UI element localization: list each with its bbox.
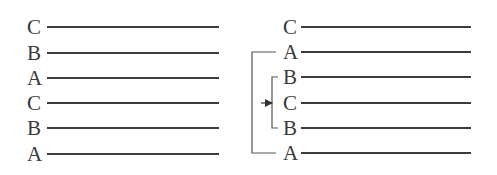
layer-label: C: [27, 91, 41, 115]
layer-row: C: [27, 15, 219, 39]
layer-row: A: [283, 141, 471, 165]
layer-label: B: [27, 116, 41, 140]
layer-row: A: [27, 142, 219, 166]
layer-row: B: [283, 116, 471, 140]
left-panel: CBACBA: [27, 15, 219, 166]
layer-label: C: [27, 15, 41, 39]
layer-label: A: [27, 142, 43, 166]
layer-row: A: [27, 66, 219, 90]
layer-row: B: [27, 41, 219, 65]
layer-row: C: [283, 15, 471, 39]
bracket-annotations: [252, 52, 278, 153]
layer-row: C: [283, 91, 471, 115]
inner-bracket-icon: [272, 77, 278, 128]
layer-label: A: [283, 141, 299, 165]
layer-label: B: [27, 41, 41, 65]
layer-label: B: [283, 116, 297, 140]
layer-row: A: [283, 40, 471, 64]
layer-label: C: [283, 15, 297, 39]
layer-row: B: [283, 65, 471, 89]
layer-label: C: [283, 91, 297, 115]
layer-label: A: [283, 40, 299, 64]
layer-row: C: [27, 91, 219, 115]
layer-diagram: CBACBA CABCBA: [0, 0, 497, 175]
layer-label: B: [283, 65, 297, 89]
right-panel: CABCBA: [283, 15, 471, 165]
layer-label: A: [27, 66, 43, 90]
layer-row: B: [27, 116, 219, 140]
